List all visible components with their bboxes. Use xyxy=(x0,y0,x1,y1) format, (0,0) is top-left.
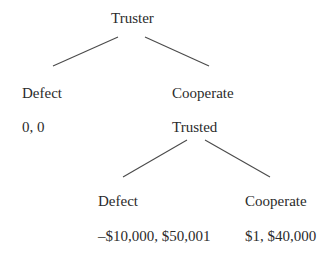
payoff-trusted-defect: –$10,000, $50,001 xyxy=(98,227,211,245)
truster-action-cooperate: Cooperate xyxy=(172,84,234,102)
payoff-truster-defect: 0, 0 xyxy=(22,118,45,136)
edge-trusted-to-defect xyxy=(123,140,187,177)
trusted-action-cooperate: Cooperate xyxy=(245,192,307,210)
root-node-player-truster: Truster xyxy=(111,9,154,27)
edge-trusted-to-cooperate xyxy=(205,140,270,177)
tree-edges xyxy=(0,0,335,258)
node-player-trusted: Trusted xyxy=(172,118,217,136)
game-tree-diagram: Truster Defect Cooperate 0, 0 Trusted De… xyxy=(0,0,335,258)
edge-truster-to-defect xyxy=(53,37,118,66)
edge-truster-to-cooperate xyxy=(145,37,209,66)
trusted-action-defect: Defect xyxy=(98,192,138,210)
payoff-trusted-cooperate: $1, $40,000 xyxy=(245,227,316,245)
truster-action-defect: Defect xyxy=(22,84,62,102)
